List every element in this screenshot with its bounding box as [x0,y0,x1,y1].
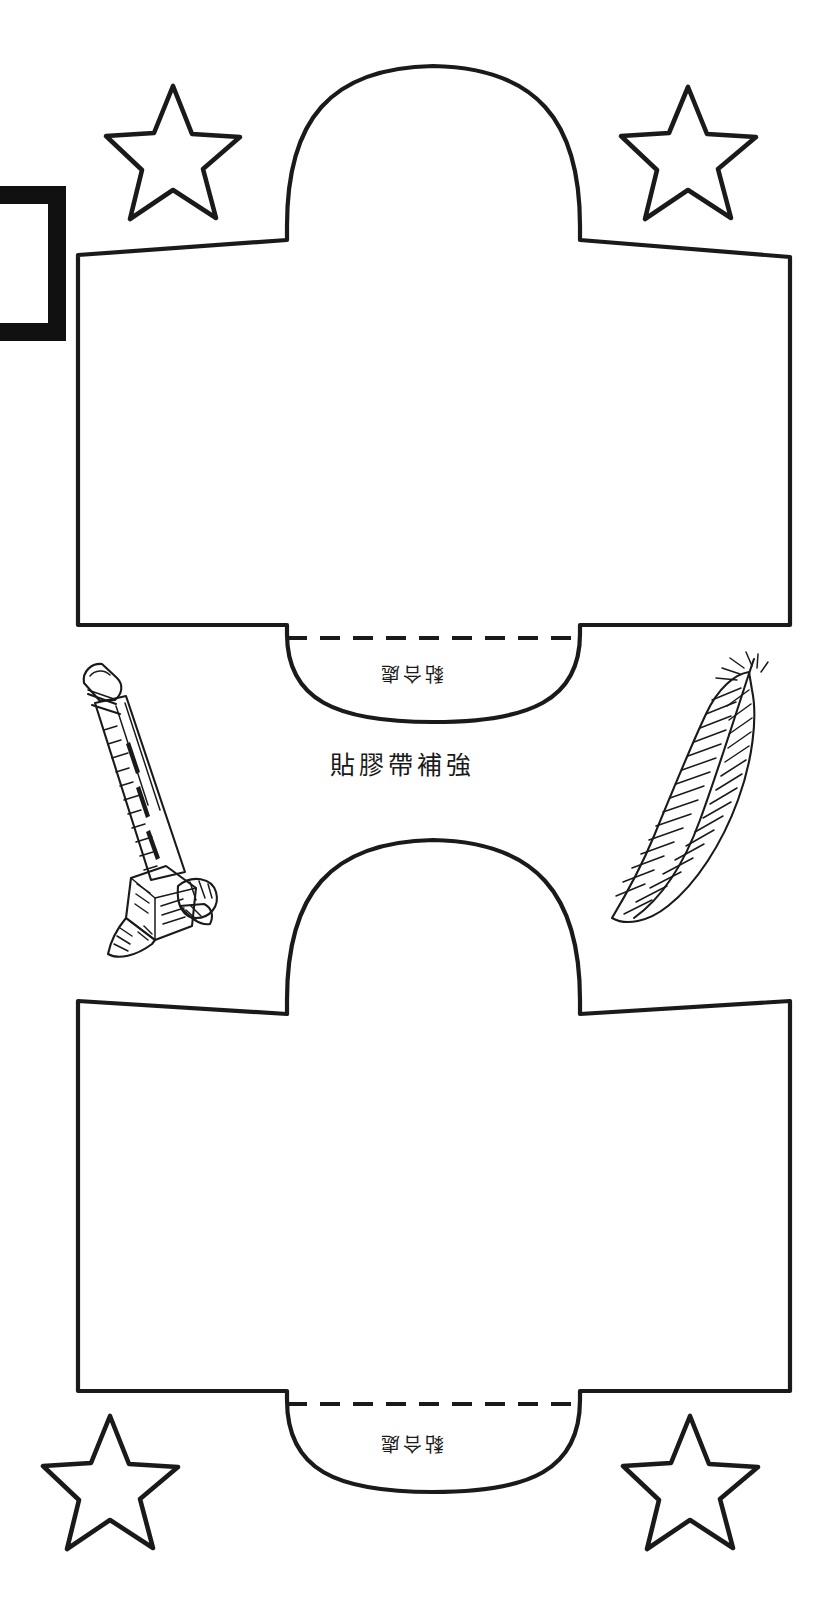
star-top-left [106,86,240,219]
star-bottom-left [43,1416,178,1549]
top-template-outline [78,66,790,722]
star-bottom-right [623,1416,758,1549]
bottom-template-glue-label: 黏合處 [378,1432,444,1459]
scanned-craft-template-page: 黏合處 貼膠帶補強 黏合處 [0,0,835,1597]
top-template-tape-label: 貼膠帶補強 [330,745,475,781]
top-template-glue-label: 黏合處 [378,662,444,689]
pencil-sharpener-illustration [84,664,217,957]
bottom-template-outline [78,840,790,1492]
black-frame-fragment [0,186,66,341]
feather-illustration [612,652,768,922]
star-top-right [621,87,756,219]
template-drawing-layer [0,0,835,1597]
